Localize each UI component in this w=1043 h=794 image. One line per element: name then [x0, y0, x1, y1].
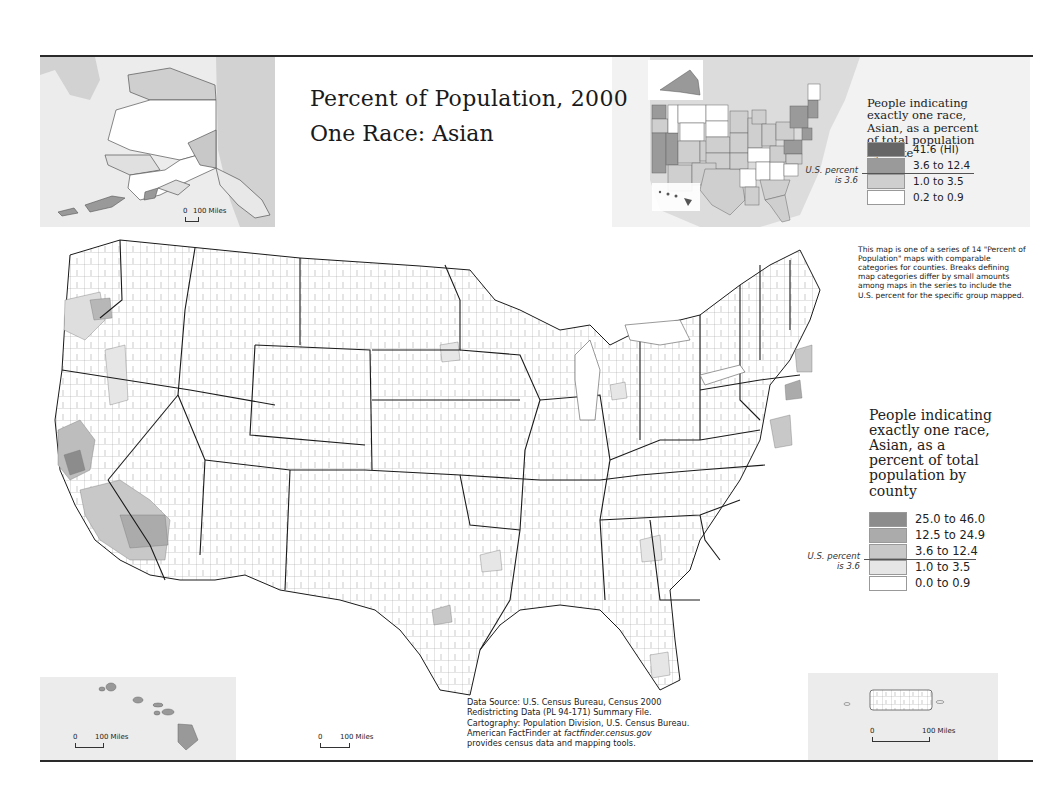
map-title: Percent of Population, 2000	[310, 86, 628, 111]
legend-swatch	[869, 528, 907, 543]
county-us-percent-note: U.S. percent is 3.6	[780, 552, 860, 572]
factfinder-link[interactable]: factfinder.census.gov	[564, 728, 652, 738]
alaska-map	[40, 57, 275, 227]
legend-swatch	[869, 576, 907, 591]
data-source-credit: Data Source: U.S. Census Bureau, Census …	[467, 697, 757, 748]
legend-swatch	[869, 544, 907, 559]
state-us-percent-note: U.S. percent is 3.6	[780, 166, 858, 186]
legend-swatch	[867, 174, 905, 189]
state-locator-map	[648, 57, 860, 227]
legend-swatch	[869, 560, 907, 575]
map-subtitle: One Race: Asian	[310, 121, 628, 146]
legend-swatch	[867, 158, 905, 173]
county-us-percent-line	[864, 559, 976, 560]
series-note: This map is one of a series of 14 "Perce…	[858, 245, 1028, 300]
legend-swatch	[867, 190, 905, 205]
map-title-block: Percent of Population, 2000 One Race: As…	[310, 86, 628, 146]
legend-swatch	[867, 142, 905, 157]
puerto-rico-map	[844, 690, 944, 710]
legend-swatch	[869, 512, 907, 527]
county-legend-title: People indicating exactly one race, Asia…	[869, 408, 992, 499]
state-us-percent-line	[862, 173, 974, 174]
conterminous-us-map	[55, 240, 820, 695]
